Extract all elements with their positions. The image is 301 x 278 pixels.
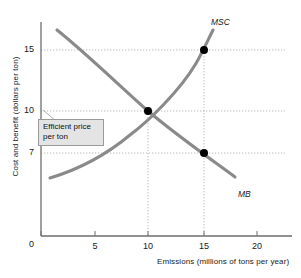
- annotation-line-2: per ton: [43, 132, 100, 142]
- curve-msc: [50, 30, 213, 178]
- x-tick-label-20: 20: [249, 241, 265, 251]
- x-axis-title: Emissions (millions of tons per year): [157, 257, 289, 266]
- marker-msc-15-15: [200, 46, 208, 54]
- x-tick-label-5: 5: [87, 241, 103, 251]
- marker-equilibrium-10-10: [144, 107, 152, 115]
- annotation-line-1: Efficient price: [43, 122, 100, 132]
- y-tick-label-15: 15: [18, 44, 34, 54]
- marker-mb-15-7: [200, 149, 208, 157]
- series-label-msc: MSC: [211, 17, 230, 27]
- y-origin-label-0: 0: [18, 239, 34, 249]
- x-tick-label-15: 15: [196, 241, 212, 251]
- annotation-efficient-price: Efficient price per ton: [38, 119, 104, 146]
- chart-figure: 15 10 7 0 5 10 15 20 Cost and benefit (d…: [0, 0, 301, 278]
- y-tick-label-7: 7: [18, 147, 34, 157]
- y-tick-label-10: 10: [18, 105, 34, 115]
- curve-mb: [57, 30, 235, 177]
- x-tick-label-10: 10: [140, 241, 156, 251]
- y-axis-title: Cost and benefit (dollars per ton): [11, 26, 20, 208]
- series-label-mb: MB: [238, 189, 251, 199]
